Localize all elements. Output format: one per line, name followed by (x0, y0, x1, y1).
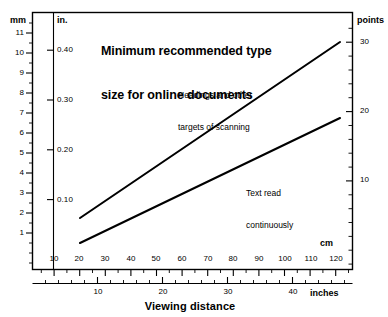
cm-tick-label-80: 80 (223, 255, 243, 264)
points-tick-label-10: 10 (360, 176, 369, 185)
mm-tick-label-7: 7 (4, 109, 24, 118)
in-axis-name: in. (57, 15, 68, 25)
mm-tick-label-9: 9 (4, 69, 24, 78)
points-tick-label-20: 20 (360, 107, 369, 116)
in-tick-label-040: 0.40 (57, 46, 73, 55)
chart-title-line-1: Minimum recommended type (101, 44, 321, 59)
mm-tick-label-2: 2 (4, 209, 24, 218)
annotation-headings-line-1: Headings and other (178, 90, 303, 101)
inches-tick-label-10: 10 (87, 288, 109, 297)
x-axis-title: Viewing distance (110, 300, 270, 312)
cm-tick-label-120: 120 (325, 255, 347, 264)
cm-tick-label-10: 10 (44, 255, 64, 264)
inches-tick-label-20: 20 (152, 288, 174, 297)
cm-tick-label-30: 30 (95, 255, 115, 264)
cm-tick-label-70: 70 (198, 255, 218, 264)
mm-axis-name: mm (4, 15, 26, 25)
cm-tick-label-20: 20 (69, 255, 89, 264)
in-tick-label-020: 0.20 (57, 146, 73, 155)
annotation-text-read: Text read continuously (246, 167, 356, 252)
inches-axis-name: inches (310, 288, 339, 298)
inches-tick-label-30: 30 (217, 288, 239, 297)
cm-tick-label-40: 40 (121, 255, 141, 264)
mm-tick-label-1: 1 (4, 229, 24, 238)
cm-tick-label-110: 110 (300, 255, 322, 264)
points-tick-label-30: 30 (360, 38, 369, 47)
in-tick-label-030: 0.30 (57, 96, 73, 105)
mm-tick-label-10: 10 (4, 49, 24, 58)
annotation-text-read-line-1: Text read (246, 188, 356, 199)
in-tick-label-010: 0.10 (57, 196, 73, 205)
mm-tick-label-3: 3 (4, 189, 24, 198)
annotation-text-read-line-2: continuously (246, 220, 356, 231)
mm-tick-label-11: 11 (4, 29, 24, 38)
cm-tick-label-90: 90 (249, 255, 269, 264)
mm-tick-label-8: 8 (4, 89, 24, 98)
points-axis-name: points (357, 15, 384, 25)
inches-tick-label-40: 40 (282, 288, 304, 297)
chart-figure: mm in. points cm inches 11 10 9 8 7 6 5 … (0, 0, 388, 317)
inches-axis-major-ticks (98, 277, 293, 284)
annotation-headings-line-2: targets of scanning (178, 122, 303, 133)
cm-tick-label-60: 60 (172, 255, 192, 264)
annotation-headings: Headings and other targets of scanning (178, 69, 303, 154)
mm-tick-label-4: 4 (4, 169, 24, 178)
cm-tick-label-50: 50 (146, 255, 166, 264)
mm-tick-label-5: 5 (4, 149, 24, 158)
cm-tick-label-100: 100 (274, 255, 296, 264)
mm-tick-label-6: 6 (4, 129, 24, 138)
